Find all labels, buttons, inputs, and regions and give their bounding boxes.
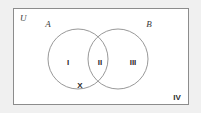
region-label-iii: III <box>130 58 137 67</box>
set-b-label: B <box>146 19 152 29</box>
universal-set-label: U <box>20 13 27 23</box>
universal-set-rectangle <box>14 9 189 105</box>
set-a-label: A <box>44 19 51 29</box>
region-label-ii: II <box>98 58 102 67</box>
region-label-i: I <box>67 58 69 67</box>
venn-diagram-figure: U A B I II III IV X <box>0 0 201 113</box>
venn-diagram-canvas: U A B I II III IV X <box>0 0 201 113</box>
region-label-iv: IV <box>173 93 181 102</box>
marked-point-x-label: X <box>77 81 83 90</box>
